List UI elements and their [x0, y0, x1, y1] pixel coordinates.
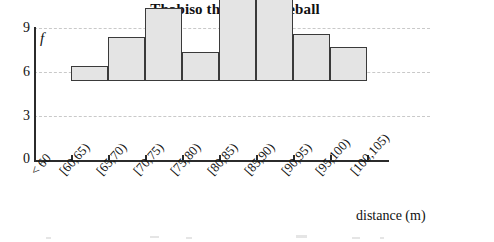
x-label-90-95: [90,95) — [278, 140, 315, 179]
x-tick-labels: < 60 [60,65) [65,70) [70,75) [75,80) [80… — [0, 0, 494, 242]
histogram-chart: Thabiso throws a baseball 9 6 3 0 f — [0, 0, 494, 242]
x-label-75-80: [75,80) — [167, 140, 204, 179]
x-label-85-90: [85,90) — [241, 140, 278, 179]
scan-artifacts — [0, 233, 494, 242]
plot-area: 9 6 3 0 f < 60 — [0, 0, 494, 242]
x-label-65-70: [65,70) — [93, 140, 130, 179]
x-label-100-105: [100,105) — [347, 130, 393, 179]
x-label-80-85: [80,85) — [204, 140, 241, 179]
x-label-95-100: [95,100) — [312, 135, 354, 179]
x-label-60-65: [60,65) — [56, 140, 93, 179]
x-label-lt-60: < 60 — [27, 150, 55, 178]
x-axis-title: distance (m) — [356, 208, 426, 224]
x-label-70-75: [70,75) — [130, 140, 167, 179]
